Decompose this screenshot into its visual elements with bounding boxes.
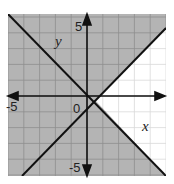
y-tick-5-label: 5	[75, 19, 82, 34]
origin-label: 0	[73, 101, 80, 116]
x-axis-label: x	[141, 118, 149, 134]
y-axis-label: y	[53, 33, 62, 49]
inequality-graph: 5 -5 0 -5 y x	[0, 0, 174, 184]
x-tick-neg5-label: -5	[6, 99, 18, 114]
y-tick-neg5-label: -5	[69, 160, 81, 175]
